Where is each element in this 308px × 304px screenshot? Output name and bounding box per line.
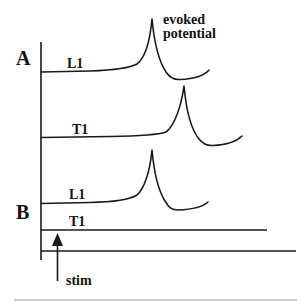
trace-label-b-t1: T1: [69, 214, 85, 229]
evoked-annotation-line1: evoked: [163, 12, 205, 27]
panel-b-label: B: [16, 201, 29, 223]
evoked-annotation-line2: potential: [163, 26, 216, 41]
trace-label-b-l1: L1: [69, 187, 85, 202]
trace-a-t1: [41, 86, 242, 146]
stim-label: stim: [66, 273, 92, 288]
trace-label-a-t1: T1: [72, 122, 88, 137]
trace-b-l1: [41, 150, 208, 210]
trace-label-a-l1: L1: [67, 56, 83, 71]
evoked-potential-diagram: A evoked potential L1 T1 B L1 T1 stim: [0, 0, 308, 304]
up-arrow-icon: [52, 233, 63, 281]
panel-a-label: A: [16, 47, 31, 69]
